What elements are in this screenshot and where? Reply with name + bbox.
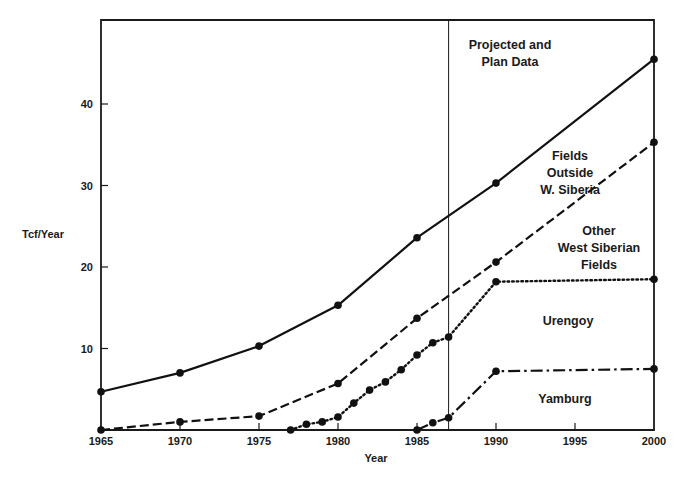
- plot-frame: [101, 20, 654, 430]
- series-line: [291, 279, 654, 430]
- data-point: [97, 388, 105, 396]
- y-tick-label: 10: [81, 343, 93, 355]
- y-axis-title: Tcf/Year: [22, 228, 65, 240]
- x-axis-title: Year: [364, 452, 388, 464]
- data-point: [334, 302, 342, 310]
- data-point: [287, 426, 295, 434]
- data-point: [350, 399, 358, 407]
- data-point: [413, 234, 421, 242]
- data-point: [429, 419, 437, 427]
- data-point: [303, 421, 311, 429]
- x-tick-label: 1965: [89, 435, 113, 447]
- x-tick-label: 1975: [247, 435, 271, 447]
- data-point: [492, 278, 500, 286]
- series-line: [101, 59, 654, 392]
- data-point: [176, 418, 184, 426]
- annotation-label: Urengoy: [543, 314, 594, 328]
- data-point: [413, 426, 421, 434]
- y-tick-label: 20: [81, 261, 93, 273]
- x-tick-label: 2000: [642, 435, 666, 447]
- data-point: [445, 333, 453, 341]
- y-tick-label: 30: [81, 180, 93, 192]
- x-tick-label: 1980: [326, 435, 350, 447]
- data-point: [650, 275, 658, 283]
- data-point: [334, 413, 342, 421]
- data-point: [650, 55, 658, 63]
- y-axis-ticks: 10203040: [81, 98, 108, 355]
- x-axis-ticks: 19651970197519801985199019952000: [89, 423, 666, 447]
- data-point: [334, 380, 342, 388]
- series-yamburg: [413, 365, 658, 434]
- data-point: [366, 386, 374, 394]
- annotation-label: Projected andPlan Data: [469, 38, 552, 69]
- x-tick-label: 1985: [405, 435, 429, 447]
- data-point: [429, 339, 437, 347]
- annotation-label: OtherWest SiberianFields: [558, 224, 640, 272]
- x-tick-label: 1995: [563, 435, 587, 447]
- y-tick-label: 40: [81, 98, 93, 110]
- data-point: [255, 412, 263, 420]
- plot-border: [101, 20, 654, 430]
- data-point: [492, 368, 500, 376]
- data-point: [255, 342, 263, 350]
- data-point: [382, 378, 390, 386]
- data-point: [650, 139, 658, 147]
- annotation-label: FieldsOutsideW. Siberia: [540, 149, 601, 197]
- data-point: [397, 366, 405, 374]
- x-tick-label: 1990: [484, 435, 508, 447]
- series-fields-outside-w-siberia: [97, 55, 658, 395]
- data-point: [492, 258, 500, 266]
- series-annotations: Projected andPlan DataFieldsOutsideW. Si…: [469, 38, 641, 406]
- data-point: [413, 351, 421, 359]
- series-urengoy: [287, 275, 658, 433]
- data-point: [445, 414, 453, 422]
- series-line: [417, 369, 654, 430]
- data-point: [413, 315, 421, 323]
- gas-production-chart: 10203040 1965197019751980198519901995200…: [0, 0, 683, 480]
- data-point: [97, 426, 105, 434]
- data-point: [318, 418, 326, 426]
- data-point: [492, 179, 500, 187]
- x-tick-label: 1970: [168, 435, 192, 447]
- data-point: [176, 369, 184, 377]
- data-point: [650, 365, 658, 373]
- annotation-label: Yamburg: [538, 392, 592, 406]
